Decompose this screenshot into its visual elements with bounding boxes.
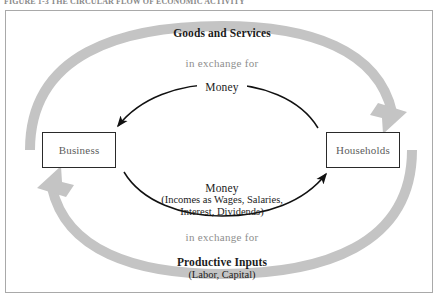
label-incomes-line-2: Interest, Dividends)	[0, 206, 444, 217]
entity-label-business: Business	[59, 144, 100, 156]
label-money-top: Money	[197, 81, 247, 93]
label-productive-inputs-sub: (Labor, Capital)	[0, 269, 444, 280]
entity-label-households: Households	[336, 144, 390, 156]
circular-flow-figure: FIGURE 1-3 THE CIRCULAR FLOW OF ECONOMIC…	[0, 0, 444, 301]
entity-box-households: Households	[326, 132, 400, 168]
label-money-bottom: Money	[0, 182, 444, 194]
label-in-exchange-for-bottom: in exchange for	[0, 231, 444, 243]
label-incomes-line-1: (Incomes as Wages, Salaries,	[0, 194, 444, 205]
entity-box-business: Business	[42, 132, 116, 168]
label-productive-inputs: Productive Inputs	[0, 256, 444, 268]
label-goods-and-services: Goods and Services	[0, 27, 444, 39]
label-in-exchange-for-top: in exchange for	[0, 57, 444, 69]
